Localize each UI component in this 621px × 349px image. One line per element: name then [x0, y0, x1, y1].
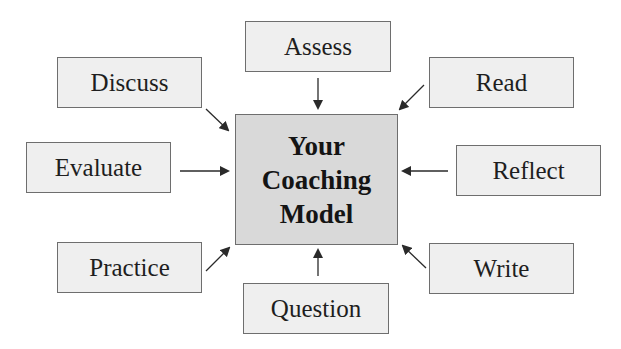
center-line-1: Your	[288, 129, 345, 163]
arrow-write	[403, 246, 426, 268]
coaching-model-diagram: Your Coaching Model Assess Discuss Read …	[0, 0, 621, 349]
arrow-read	[400, 85, 424, 109]
arrow-practice	[206, 248, 229, 271]
node-discuss: Discuss	[57, 57, 202, 108]
center-line-3: Model	[280, 197, 354, 231]
node-assess: Assess	[245, 21, 391, 72]
node-question: Question	[243, 283, 389, 334]
node-practice: Practice	[57, 242, 202, 293]
node-reflect: Reflect	[456, 145, 601, 196]
node-read: Read	[429, 57, 574, 108]
arrow-discuss	[206, 109, 228, 130]
center-line-2: Coaching	[262, 163, 372, 197]
node-evaluate: Evaluate	[26, 142, 171, 193]
center-box: Your Coaching Model	[235, 114, 398, 245]
node-write: Write	[429, 243, 574, 294]
